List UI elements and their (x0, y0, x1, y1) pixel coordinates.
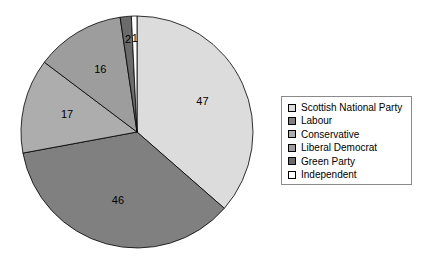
legend-label-green-party: Green Party (301, 155, 355, 168)
legend-label-labour: Labour (301, 114, 332, 127)
chart-legend: Scottish National Party Labour Conservat… (281, 96, 412, 185)
legend-label-conservative: Conservative (301, 128, 359, 141)
legend-item-conservative: Conservative (288, 128, 406, 141)
pie-slice-data-label: 1 (132, 32, 138, 44)
legend-label-scottish-national-party: Scottish National Party (301, 101, 402, 114)
pie-slice-data-label: 2 (125, 33, 131, 45)
pie-slice-data-label: 17 (61, 108, 73, 120)
legend-swatch-independent (288, 171, 296, 179)
pie-slice-group (21, 16, 253, 248)
legend-swatch-liberal-democrat (288, 144, 296, 152)
legend-swatch-labour (288, 117, 296, 125)
legend-item-green-party: Green Party (288, 155, 406, 168)
legend-swatch-conservative (288, 130, 296, 138)
legend-label-independent: Independent (301, 168, 357, 181)
pie-slice-data-label: 46 (112, 194, 124, 206)
legend-item-labour: Labour (288, 114, 406, 127)
pie-slice-data-label: 16 (94, 63, 106, 75)
legend-label-liberal-democrat: Liberal Democrat (301, 141, 377, 154)
legend-item-independent: Independent (288, 168, 406, 181)
pie-slice-data-label: 47 (196, 95, 208, 107)
legend-swatch-scottish-national-party (288, 104, 296, 112)
legend-item-liberal-democrat: Liberal Democrat (288, 141, 406, 154)
legend-item-scottish-national-party: Scottish National Party (288, 101, 406, 114)
pie-chart-figure: 4746171621 Scottish National Party Labou… (0, 0, 432, 263)
legend-swatch-green-party (288, 157, 296, 165)
